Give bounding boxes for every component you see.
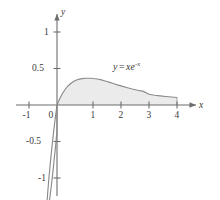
y-axis-label: y <box>61 8 65 18</box>
plot-canvas <box>0 0 220 200</box>
x-tick-label-0-origin: 0 <box>49 111 54 121</box>
shaded-area-under-curve <box>57 78 177 105</box>
x-tick-label-4: 4 <box>175 111 180 121</box>
figure-xe-negative-x-plot: -1 0 1 2 3 4 1 0.5 -0.5 -1 x y y=xe-x <box>0 0 220 200</box>
y-tick-label-0.5: 0.5 <box>32 64 44 74</box>
equation-rhs-base: xe <box>126 61 135 72</box>
x-tick-label--1: -1 <box>23 111 31 121</box>
x-tick-label-1: 1 <box>91 111 96 121</box>
equation-operator: = <box>117 61 126 72</box>
x-axis-arrow-icon <box>190 102 197 107</box>
x-axis-label: x <box>199 101 203 111</box>
y-axis-arrow-icon <box>54 14 59 21</box>
curve-equation-annotation: y=xe-x <box>113 62 140 72</box>
y-tick-label--0.5: -0.5 <box>26 137 41 147</box>
y-tick-label--1: -1 <box>38 174 46 184</box>
equation-rhs-exponent: -x <box>135 60 140 67</box>
y-tick-label-1: 1 <box>44 28 49 38</box>
x-tick-label-3: 3 <box>147 111 152 121</box>
x-tick-label-2: 2 <box>119 111 124 121</box>
